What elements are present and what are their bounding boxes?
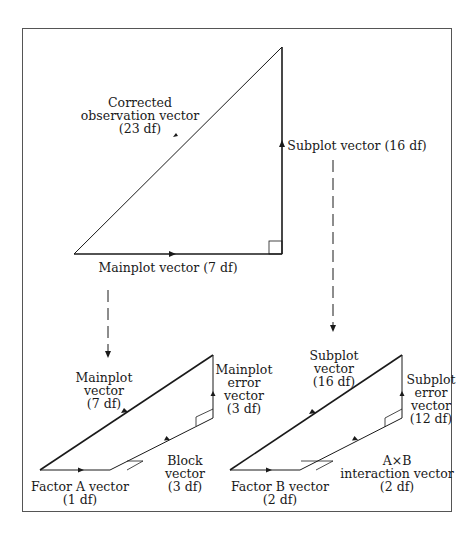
label-line: (3 df): [216, 402, 273, 415]
label-line: Subplot vector (16 df): [287, 139, 426, 152]
label-block-vector: Block vector (3 df): [165, 454, 205, 493]
arrow-icon: [169, 251, 176, 257]
label-factor-a-vector: Factor A vector (1 df): [31, 480, 129, 506]
label-line: (3 df): [165, 480, 205, 493]
label-line: (23 df): [81, 122, 199, 135]
right-angle-marker: [196, 409, 213, 426]
right-angle-marker: [127, 461, 143, 470]
top-triangle: [74, 47, 282, 254]
label-subplot-vector-top: Subplot vector (16 df): [287, 139, 426, 152]
label-line: Mainplot vector (7 df): [98, 261, 237, 274]
label-line: (16 df): [309, 375, 358, 388]
label-factor-b-vector: Factor B vector (2 df): [231, 480, 329, 506]
label-corrected-observation-vector: Corrected observation vector (23 df): [81, 96, 199, 135]
top-arrowheads: [169, 133, 285, 257]
label-line: (2 df): [340, 480, 453, 493]
arrow-icon: [78, 468, 84, 473]
right-angle-marker: [269, 241, 282, 254]
arrow-icon: [400, 391, 405, 396]
label-line: (2 df): [231, 493, 329, 506]
arrow-down-icon: [105, 351, 111, 358]
label-mainplot-vector-top: Mainplot vector (7 df): [98, 261, 237, 274]
label-mainplot-vector: Mainplot vector (7 df): [76, 371, 133, 410]
label-mainplot-error-vector: Mainplot error vector (3 df): [216, 363, 273, 415]
corrected-observation-vector: [74, 47, 282, 254]
label-axb-interaction-vector: A×B interaction vector (2 df): [340, 454, 453, 493]
arrow-icon: [266, 468, 272, 473]
label-line: (1 df): [31, 493, 129, 506]
right-angle-marker: [385, 409, 402, 427]
label-subplot-error-vector: Subplot error vector (12 df): [406, 373, 455, 425]
label-subplot-vector: Subplot vector (16 df): [309, 349, 358, 388]
arrow-icon: [279, 140, 285, 147]
right-angle-marker: [301, 461, 333, 470]
arrow-icon: [164, 436, 170, 441]
label-line: (7 df): [76, 397, 133, 410]
dashed-arrows: [108, 160, 333, 352]
label-line: (12 df): [406, 412, 455, 425]
arrow-down-icon: [330, 325, 336, 332]
arrow-icon: [352, 436, 358, 441]
